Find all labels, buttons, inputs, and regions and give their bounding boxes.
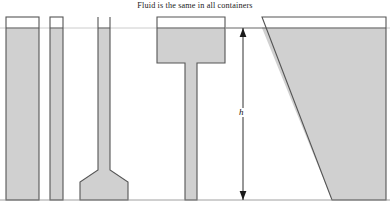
fluid-body-wedge bbox=[262, 28, 386, 200]
container-wedge bbox=[262, 17, 386, 200]
fluid-body-t-shape bbox=[157, 28, 225, 200]
fluid-body-narrow-rectangle bbox=[50, 28, 63, 200]
container-t-shape bbox=[157, 17, 225, 200]
fluid-body-funnel bbox=[80, 28, 128, 200]
container-narrow-rectangle bbox=[50, 17, 63, 200]
height-dimension-label: h bbox=[238, 108, 245, 117]
fluid-body-wide-rectangle bbox=[6, 28, 39, 200]
fluid-levels-figure: Fluid is the same in all containers bbox=[0, 0, 390, 213]
down-arrowhead-icon bbox=[240, 191, 247, 200]
fluid-diagram-canvas bbox=[0, 0, 390, 213]
container-funnel bbox=[80, 17, 128, 200]
container-wide-rectangle bbox=[6, 17, 39, 200]
up-arrowhead-icon bbox=[240, 28, 247, 37]
